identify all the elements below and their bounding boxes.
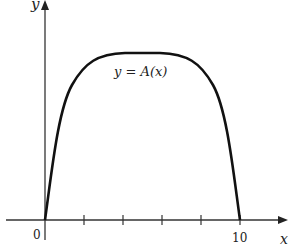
x-end-label: 10 (232, 231, 247, 245)
y-axis-label: y (30, 0, 40, 13)
chart-canvas: y x 0 10 y = A(x) (0, 0, 288, 252)
x-axis-label: x (280, 231, 288, 247)
x-axis-arrow-icon (278, 216, 288, 224)
curve-label: y = A(x) (113, 64, 167, 79)
y-axis-arrow-icon (41, 0, 49, 10)
origin-label: 0 (33, 228, 41, 242)
